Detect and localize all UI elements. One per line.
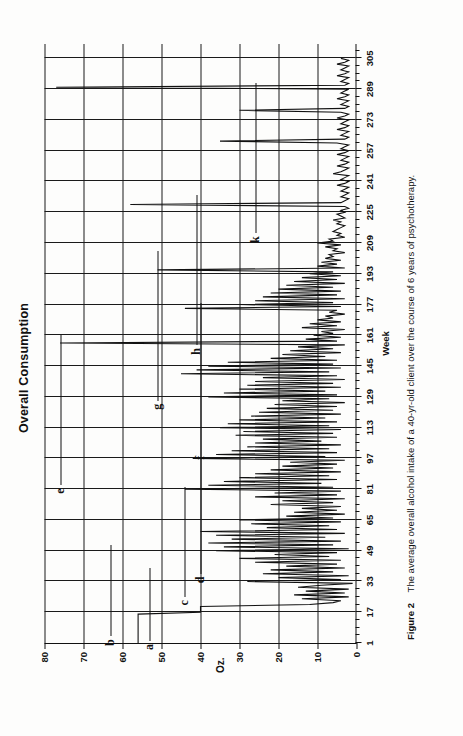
annotation-label-c: c: [177, 597, 192, 605]
x-axis-tick-label: 49: [363, 545, 374, 556]
y-axis-tick: [122, 643, 123, 649]
figure-caption: Figure 2 The average overall alcohol int…: [404, 26, 416, 640]
annotation-label-d: d: [193, 574, 208, 584]
chart-title: Overall Consumption: [16, 0, 30, 736]
annotation-label-h: h: [189, 345, 204, 355]
y-axis-tick: [239, 643, 240, 649]
x-axis-tick-label: 17: [363, 607, 374, 618]
x-axis-tick-label: 161: [363, 327, 374, 343]
figure-caption-label: Figure 2: [404, 603, 415, 640]
y-axis-tick-label: 0: [351, 652, 362, 657]
y-axis-tick-label: 20: [273, 652, 284, 663]
y-axis-tick: [161, 643, 162, 649]
y-axis-tick: [278, 643, 279, 649]
x-axis-tick-label: 209: [363, 235, 374, 251]
y-axis-tick-label: 60: [117, 652, 128, 663]
x-axis-tick-label: 225: [363, 204, 374, 220]
x-axis-tick-label: 33: [363, 576, 374, 587]
annotation-label-k: k: [247, 233, 262, 243]
y-axis-tick: [200, 643, 201, 649]
y-axis-tick-label: 30: [234, 652, 245, 663]
data-series-line: [44, 43, 356, 643]
annotation-label-a: a: [142, 641, 157, 650]
annotation-label-f: f: [193, 453, 208, 460]
x-axis-tick-label: 177: [363, 297, 374, 313]
x-axis-title: Week: [379, 331, 390, 356]
figure-caption-text: The average overall alcohol intake of a …: [404, 175, 415, 593]
annotation-label-g: g: [150, 401, 165, 410]
x-axis-tick-label: 289: [363, 81, 374, 97]
y-axis-tick-label: 80: [39, 652, 50, 663]
rotated-figure-stage: Overall Consumption 01020304050607080 11…: [0, 0, 463, 736]
y-axis-tick-label: 10: [312, 652, 323, 663]
y-axis-tick: [83, 643, 84, 649]
annotation-label-e: e: [52, 485, 67, 493]
x-axis-tick-label: 81: [363, 484, 374, 495]
x-axis-tick-label: 241: [363, 174, 374, 190]
figure-page: Overall Consumption 01020304050607080 11…: [0, 0, 463, 736]
y-axis-tick-label: 50: [156, 652, 167, 663]
annotation-label-b: b: [103, 636, 118, 646]
x-axis-tick-label: 257: [363, 143, 374, 159]
x-axis-tick-label: 1: [363, 640, 374, 645]
x-axis-tick-label: 65: [363, 515, 374, 526]
plot-area: 01020304050607080 1173349658197113129145…: [44, 44, 356, 644]
x-axis-tick-label: 113: [363, 420, 374, 435]
y-axis-tick: [317, 643, 318, 649]
y-axis-title: Oz.: [214, 657, 225, 673]
x-axis-tick-label: 273: [363, 112, 374, 128]
y-axis-tick-label: 40: [195, 652, 206, 663]
y-axis-tick: [356, 643, 357, 649]
x-axis-tick-label: 129: [363, 389, 374, 405]
x-axis-tick-label: 97: [363, 453, 374, 464]
x-axis-tick-label: 145: [363, 358, 374, 374]
x-axis-tick-label: 305: [363, 50, 374, 66]
x-axis-tick-label: 193: [363, 266, 374, 282]
y-axis-tick: [44, 643, 45, 649]
y-axis-tick-label: 70: [78, 652, 89, 663]
